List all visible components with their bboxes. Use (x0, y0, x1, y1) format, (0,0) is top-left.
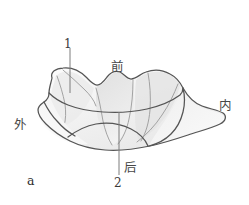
panel-label: a (27, 175, 34, 188)
direction-label-inner: 内 (219, 100, 232, 113)
direction-label-posterior: 后 (124, 162, 137, 175)
callout-label-2: 2 (114, 177, 122, 189)
callout-label-1: 1 (64, 38, 72, 50)
direction-label-outer: 外 (14, 119, 27, 132)
figure-panel: 1 前 外 内 后 2 a (0, 0, 249, 205)
direction-label-anterior: 前 (111, 61, 124, 74)
